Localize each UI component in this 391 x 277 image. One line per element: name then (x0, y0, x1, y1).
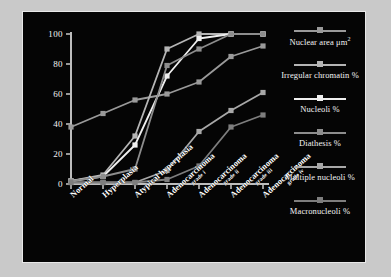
series-line-0 (71, 46, 263, 127)
legend-label: Nucleoli % (300, 104, 339, 114)
series-marker (164, 63, 169, 68)
legend-swatch (294, 60, 346, 69)
legend-marker-icon (317, 27, 323, 33)
series-marker (100, 111, 105, 116)
chart-panel: 020406080100 NormalHyperplasiaAtypical h… (22, 11, 366, 263)
legend-label: Multiple nucleoli % (285, 172, 355, 182)
legend-item: Diathesis % (275, 128, 365, 162)
series-marker (228, 31, 233, 36)
legend-item: Multiple nucleoli % (275, 162, 365, 196)
series-marker (196, 36, 201, 41)
legend-label: Nuclear area μm2 (289, 36, 350, 47)
legend-marker-icon (317, 129, 323, 135)
series-marker (164, 177, 169, 182)
legend-marker-icon (317, 61, 323, 67)
legend-marker-icon (317, 163, 323, 169)
plot-area: 020406080100 NormalHyperplasiaAtypical h… (23, 12, 273, 263)
legend-swatch (294, 94, 346, 103)
legend-label-exponent: 2 (347, 36, 350, 42)
legend-swatch (294, 162, 346, 171)
chart-legend: Nuclear area μm2Irregular chromatin %Nuc… (275, 26, 365, 252)
y-tick-label: 80 (53, 59, 63, 69)
series-marker (228, 108, 233, 113)
series-marker (228, 54, 233, 59)
figure-root: 020406080100 NormalHyperplasiaAtypical h… (0, 0, 391, 277)
legend-swatch (294, 26, 346, 35)
series-marker (132, 180, 137, 185)
y-tick-label: 20 (53, 149, 63, 159)
legend-label: Diathesis % (299, 138, 341, 148)
legend-item: Nucleoli % (275, 94, 365, 128)
series-marker (196, 163, 201, 168)
y-tick-label: 40 (53, 119, 63, 129)
series-marker (132, 133, 137, 138)
series-marker (228, 124, 233, 129)
y-tick-label: 60 (53, 89, 63, 99)
series-marker (196, 46, 201, 51)
series-marker (132, 97, 137, 102)
series-marker (68, 180, 73, 185)
legend-item: Irregular chromatin % (275, 60, 365, 94)
series-marker (164, 91, 169, 96)
y-tick-label: 0 (58, 179, 63, 189)
series-marker (164, 168, 169, 173)
legend-label: Irregular chromatin % (281, 70, 359, 80)
series-marker (196, 31, 201, 36)
series-marker (132, 166, 137, 171)
series-marker (68, 124, 73, 129)
series-marker (260, 43, 265, 48)
y-tick-label: 100 (48, 29, 63, 39)
legend-label: Macronucleoli % (290, 206, 350, 216)
series-marker (260, 31, 265, 36)
series-marker (260, 112, 265, 117)
series-marker (196, 79, 201, 84)
line-chart: 020406080100 (23, 12, 273, 263)
series-marker (164, 46, 169, 51)
series-marker (100, 180, 105, 185)
legend-marker-icon (317, 197, 323, 203)
legend-swatch (294, 128, 346, 137)
series-marker (100, 174, 105, 179)
legend-item: Nuclear area μm2 (275, 26, 365, 60)
series-marker (260, 90, 265, 95)
series-marker (196, 129, 201, 134)
legend-swatch (294, 196, 346, 205)
legend-item: Macronucleoli % (275, 196, 365, 230)
legend-marker-icon (317, 95, 323, 101)
series-marker (132, 142, 137, 147)
